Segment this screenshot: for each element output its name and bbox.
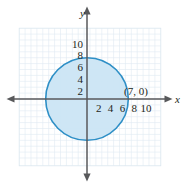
- x-axis-label: x: [175, 94, 180, 105]
- y-tick-label-10: 10: [62, 39, 83, 50]
- x-tick-label-2: 2: [93, 103, 105, 114]
- y-tick-label-6: 6: [62, 62, 83, 73]
- y-axis-down-arrow: [83, 174, 90, 182]
- x-tick-label-10: 10: [139, 103, 154, 114]
- x-axis-right-arrow: [165, 95, 173, 102]
- figure-canvas: 10 8 6 4 2 2 4 6 8 10 y x (7, 0): [0, 0, 184, 186]
- coordinate-plane-graph: [0, 0, 184, 186]
- point-annotation-7-0: (7, 0): [124, 86, 148, 97]
- x-tick-label-4: 4: [105, 103, 117, 114]
- y-tick-label-4: 4: [62, 74, 83, 85]
- y-tick-label-8: 8: [62, 50, 83, 61]
- x-tick-label-6: 6: [116, 103, 128, 114]
- y-tick-label-2: 2: [62, 86, 83, 97]
- x-axis-left-arrow: [7, 95, 15, 102]
- y-axis-label: y: [80, 8, 85, 19]
